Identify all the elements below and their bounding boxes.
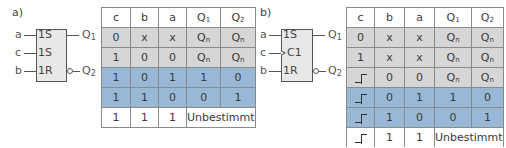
table-row: 1 0 0 1 <box>347 108 504 128</box>
input-c-line <box>24 53 36 54</box>
rising-edge-icon <box>347 88 375 108</box>
cell: 1 <box>472 108 503 128</box>
input-a-name: a <box>260 29 267 41</box>
cell: x <box>375 28 405 48</box>
pin-c1-label: C1 <box>287 47 302 59</box>
pin-1r-label: 1R <box>38 65 53 77</box>
table-header-row: c b a Q1 Q2 <box>347 8 504 28</box>
output-q1-label: Q1 <box>328 29 342 44</box>
cell: 0 <box>187 88 221 108</box>
input-b-line <box>24 71 36 72</box>
header-q1: Q1 <box>187 8 221 28</box>
cell: 1 <box>435 88 472 108</box>
input-c-line <box>269 53 281 54</box>
pin-1s-label: 1S <box>283 29 297 41</box>
header-a: a <box>159 8 187 28</box>
output-q1-label: Q1 <box>82 29 96 44</box>
pin-1s-label-2: 1S <box>38 47 52 59</box>
cell-qn: Qn <box>435 48 472 68</box>
input-b-name: b <box>15 65 22 77</box>
header-a: a <box>405 8 435 28</box>
output-q1-line <box>67 35 79 36</box>
cell-qn: Qn <box>472 28 503 48</box>
cell: x <box>131 28 159 48</box>
header-c: c <box>102 8 131 28</box>
output-q2-line <box>73 71 80 72</box>
cell: 0 <box>159 88 187 108</box>
input-a-line <box>269 35 281 36</box>
cell: 1 <box>405 88 435 108</box>
input-b-line <box>269 71 281 72</box>
cell: 0 <box>405 108 435 128</box>
cell-undetermined: Unbestimmt <box>435 128 504 148</box>
cell: x <box>375 48 405 68</box>
cell: 1 <box>131 108 159 128</box>
truth-table-a: c b a Q1 Q2 0 x x Qn Qn 1 0 0 Qn Qn 1 0 … <box>101 7 256 128</box>
table-row: 1 1 0 0 1 <box>102 88 256 108</box>
header-c: c <box>347 8 375 28</box>
cell: x <box>405 28 435 48</box>
cell: 1 <box>131 88 159 108</box>
cell: x <box>405 48 435 68</box>
header-q2: Q2 <box>221 8 255 28</box>
rising-edge-icon <box>347 128 375 148</box>
table-row: 0 x x Qn Qn <box>102 28 256 48</box>
cell: 1 <box>102 48 131 68</box>
cell: 0 <box>102 28 131 48</box>
input-c-name: c <box>260 47 266 59</box>
header-q1: Q1 <box>435 8 472 28</box>
rising-edge-icon <box>347 68 375 88</box>
output-q2-label: Q2 <box>328 65 342 80</box>
cell: 0 <box>347 28 375 48</box>
cell-qn: Qn <box>221 48 255 68</box>
input-a-line <box>24 35 36 36</box>
truth-table-b: c b a Q1 Q2 0 x x Qn Qn 1 x x Qn Qn 0 0 … <box>346 7 504 147</box>
header-q2: Q2 <box>472 8 503 28</box>
panel-b-label: b) <box>260 6 271 19</box>
cell: 1 <box>187 68 221 88</box>
table-row: 1 0 0 Qn Qn <box>102 48 256 68</box>
cell: 1 <box>221 88 255 108</box>
table-header-row: c b a Q1 Q2 <box>102 8 256 28</box>
input-a-name: a <box>15 29 22 41</box>
output-q2-line <box>319 71 326 72</box>
header-b: b <box>131 8 159 28</box>
table-row: 1 1 1 Unbestimmt <box>102 108 256 128</box>
input-c-name: c <box>15 47 21 59</box>
cell-qn: Qn <box>435 28 472 48</box>
header-b: b <box>375 8 405 28</box>
output-q1-line <box>313 35 325 36</box>
panel-a-label: a) <box>12 6 23 19</box>
cell: 1 <box>102 88 131 108</box>
cell: 0 <box>375 68 405 88</box>
clock-input-icon <box>281 50 286 56</box>
cell: 1 <box>405 128 435 148</box>
cell-qn: Qn <box>435 68 472 88</box>
table-row: 0 1 1 0 <box>347 88 504 108</box>
cell-qn: Qn <box>187 28 221 48</box>
cell: 0 <box>472 88 503 108</box>
input-b-name: b <box>260 65 267 77</box>
rising-edge-icon <box>347 108 375 128</box>
cell: x <box>159 28 187 48</box>
cell: 1 <box>102 108 131 128</box>
table-row: 1 0 1 1 0 <box>102 68 256 88</box>
table-row: 1 x x Qn Qn <box>347 48 504 68</box>
output-q2-label: Q2 <box>82 65 96 80</box>
cell-undetermined: Unbestimmt <box>187 108 256 128</box>
pin-1r-label: 1R <box>283 65 298 77</box>
table-row: 0 0 Qn Qn <box>347 68 504 88</box>
table-row: 0 x x Qn Qn <box>347 28 504 48</box>
table-row: 1 1 Unbestimmt <box>347 128 504 148</box>
cell: 0 <box>435 108 472 128</box>
cell: 0 <box>131 48 159 68</box>
cell: 0 <box>405 68 435 88</box>
cell-qn: Qn <box>221 28 255 48</box>
cell: 1 <box>159 108 187 128</box>
pin-1s-label: 1S <box>38 29 52 41</box>
cell: 0 <box>159 48 187 68</box>
cell: 1 <box>347 48 375 68</box>
cell: 1 <box>375 108 405 128</box>
cell: 0 <box>131 68 159 88</box>
cell-qn: Qn <box>187 48 221 68</box>
